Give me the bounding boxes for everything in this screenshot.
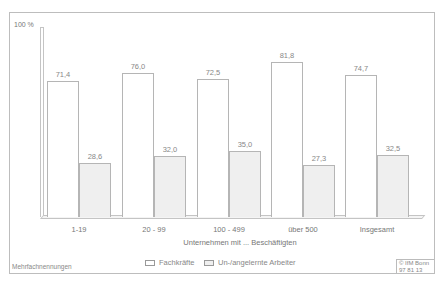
bar-arbeiter bbox=[229, 151, 261, 218]
category-label: 20 - 99 bbox=[114, 225, 194, 234]
legend-item-fachkraefte: Fachkräfte bbox=[145, 258, 194, 267]
legend-swatch-white bbox=[145, 260, 155, 266]
legend-label: Fachkräfte bbox=[159, 258, 194, 267]
category-label: 100 - 499 bbox=[189, 225, 269, 234]
y-axis-label: 100 % bbox=[14, 21, 34, 28]
bar-arbeiter bbox=[154, 156, 186, 217]
bar-value-label: 27,3 bbox=[299, 154, 339, 163]
bar-value-label: 32,0 bbox=[150, 145, 190, 154]
category-label: 1-19 bbox=[39, 225, 119, 234]
bar-value-label: 32,5 bbox=[373, 144, 413, 153]
legend-label: Un-/angelernte Arbeiter bbox=[218, 258, 296, 267]
legend-item-arbeiter: Un-/angelernte Arbeiter bbox=[204, 258, 296, 267]
bar-value-label: 74,7 bbox=[341, 64, 381, 73]
bar-fachkraefte bbox=[47, 81, 79, 217]
credit-box: © IfM Bonn 97 81 13 bbox=[396, 259, 434, 273]
credit-line: 97 81 13 bbox=[399, 267, 434, 274]
credit-line: © IfM Bonn bbox=[399, 260, 434, 267]
x-axis-title: Unternehmen mit ... Beschäftigten bbox=[110, 238, 370, 247]
bar-value-label: 71,4 bbox=[43, 70, 83, 79]
category-label: Insgesamt bbox=[337, 225, 417, 234]
bar-value-label: 28,6 bbox=[75, 152, 115, 161]
footnote: Mehrfachnennungen bbox=[12, 263, 72, 270]
bar-value-label: 35,0 bbox=[225, 140, 265, 149]
bar-value-label: 76,0 bbox=[118, 62, 158, 71]
bar-value-label: 72,5 bbox=[193, 68, 233, 77]
category-label: über 500 bbox=[263, 225, 343, 234]
bar-fachkraefte bbox=[271, 62, 303, 217]
bar-arbeiter bbox=[377, 155, 409, 217]
bar-arbeiter bbox=[79, 163, 111, 217]
bar-arbeiter bbox=[303, 165, 335, 217]
legend-swatch-hatched bbox=[204, 260, 214, 266]
bar-value-label: 81,8 bbox=[267, 51, 307, 60]
y-axis bbox=[40, 27, 44, 217]
